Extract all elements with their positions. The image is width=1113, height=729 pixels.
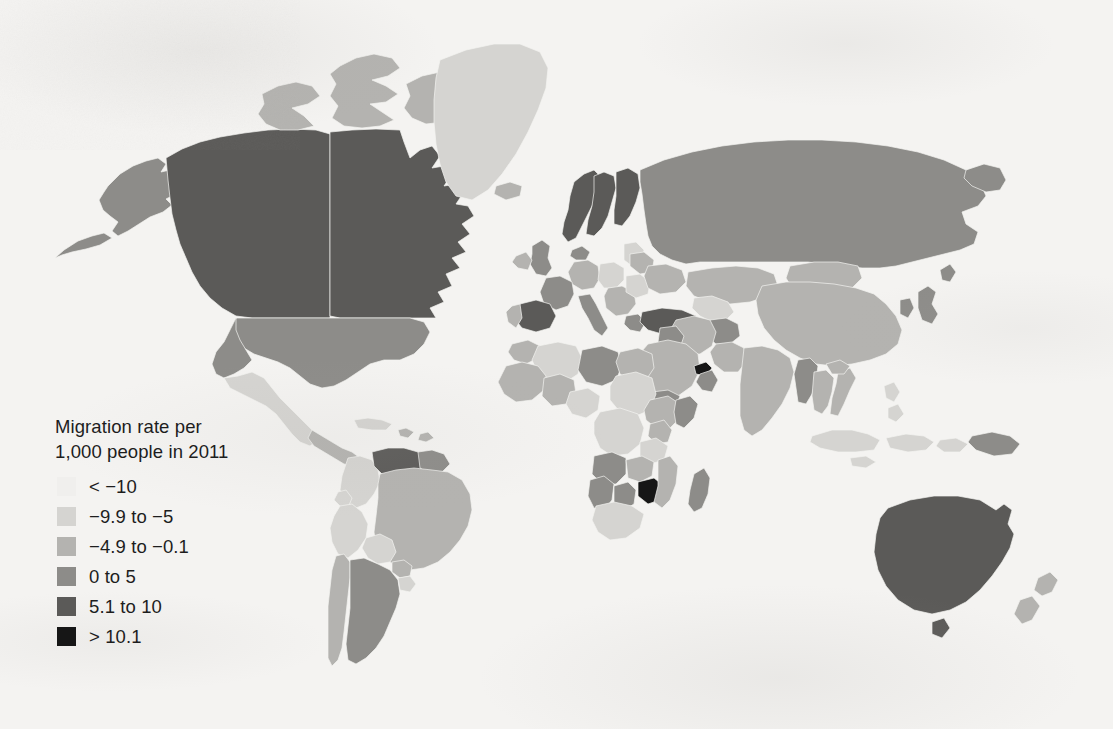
country-peru [330, 504, 368, 558]
country-canada-arctic [258, 82, 320, 130]
country-italy [578, 294, 608, 336]
country-ireland [512, 252, 532, 270]
legend-rows: < −10−9.9 to −5−4.9 to −0.10 to 55.1 to … [55, 471, 228, 651]
country-japan [940, 264, 956, 282]
country-mexico [224, 372, 318, 446]
country-japan [918, 286, 938, 324]
country-ukraine [644, 264, 686, 294]
country-argentina [346, 558, 400, 664]
country-iceland [494, 182, 522, 200]
country-indonesia [936, 438, 968, 452]
country-vietnam [830, 368, 856, 416]
country-australia [932, 618, 950, 638]
country-pakistan [710, 342, 746, 372]
country-caribbean [398, 428, 414, 438]
legend-label: −9.9 to −5 [89, 507, 173, 526]
country-west-africa [498, 362, 546, 402]
country-denmark [570, 246, 590, 260]
country-australia [874, 496, 1014, 614]
country-poland [598, 262, 624, 288]
country-canada-arctic [330, 54, 400, 128]
legend-label: −4.9 to −0.1 [89, 537, 189, 556]
legend-row: −4.9 to −0.1 [55, 531, 228, 561]
country-nigeria [566, 388, 600, 418]
country-cuba [354, 418, 392, 430]
legend-row: < −10 [55, 471, 228, 501]
country-caribbean [418, 432, 434, 442]
country-alaska [55, 233, 112, 258]
map-legend: Migration rate per 1,000 people in 2011 … [55, 414, 228, 651]
country-russia [640, 140, 986, 268]
country-indonesia [886, 434, 934, 452]
country-india [740, 346, 794, 436]
legend-label: 0 to 5 [89, 567, 136, 586]
country-new-zealand [1034, 572, 1058, 596]
country-new-zealand [1014, 596, 1040, 624]
legend-label: 5.1 to 10 [89, 597, 162, 616]
country-dr-congo [594, 408, 644, 456]
legend-swatch [57, 477, 76, 496]
country-philippines [888, 404, 904, 422]
legend-row: 5.1 to 10 [55, 591, 228, 621]
country-canada [166, 129, 330, 318]
country-papua-new-guinea [968, 432, 1020, 456]
legend-row: 0 to 5 [55, 561, 228, 591]
legend-label: < −10 [89, 477, 137, 496]
country-finland [614, 168, 640, 226]
country-madagascar [688, 468, 710, 512]
legend-swatch [57, 627, 76, 646]
legend-swatch [57, 507, 76, 526]
legend-row: −9.9 to −5 [55, 501, 228, 531]
legend-title: Migration rate per 1,000 people in 2011 [55, 414, 228, 464]
country-korea [900, 298, 914, 318]
country-greenland [434, 44, 548, 200]
country-zambia [626, 456, 654, 482]
country-philippines [884, 382, 900, 402]
country-south-africa [592, 502, 644, 540]
legend-row: > 10.1 [55, 621, 228, 651]
country-indonesia [810, 430, 880, 452]
country-uruguay [398, 576, 416, 592]
country-united-kingdom [530, 240, 552, 276]
legend-swatch [57, 537, 76, 556]
legend-swatch [57, 597, 76, 616]
country-indonesia [850, 456, 876, 468]
legend-label: > 10.1 [89, 627, 142, 646]
country-somalia [674, 396, 698, 428]
legend-swatch [57, 567, 76, 586]
